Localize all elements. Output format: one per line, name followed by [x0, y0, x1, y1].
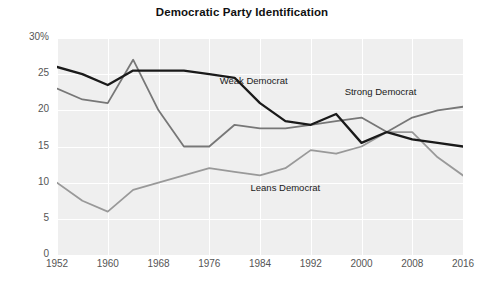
series-line-leans-democrat	[57, 132, 463, 212]
y-axis-tick-label: 30%	[0, 31, 49, 42]
x-axis: 195219601968197619841992200020082016	[0, 258, 484, 278]
x-axis-tick-label: 2016	[452, 258, 474, 269]
y-axis-tick-label: 25	[0, 67, 49, 78]
y-axis-tick-label: 20	[0, 103, 49, 114]
series-lines	[57, 38, 463, 255]
x-axis-tick-label: 1960	[97, 258, 119, 269]
x-axis-tick-label: 1968	[147, 258, 169, 269]
y-axis: 051015202530%	[0, 0, 53, 286]
chart-title: Democratic Party Identification	[0, 6, 484, 18]
series-label-weak-democrat: Weak Democrat	[220, 75, 288, 86]
series-label-leans-democrat: Leans Democrat	[251, 182, 321, 193]
chart-container: Democratic Party Identification 05101520…	[0, 0, 484, 286]
gridline-vertical	[463, 38, 464, 255]
plot-area	[57, 38, 463, 255]
x-axis-tick-label: 1976	[198, 258, 220, 269]
x-axis-tick-label: 1984	[249, 258, 271, 269]
y-axis-tick-label: 10	[0, 176, 49, 187]
x-axis-tick-label: 2000	[350, 258, 372, 269]
y-axis-tick-label: 15	[0, 140, 49, 151]
series-label-strong-democrat: Strong Democrat	[345, 86, 417, 97]
y-axis-tick-label: 5	[0, 212, 49, 223]
x-axis-tick-label: 1952	[46, 258, 68, 269]
x-axis-tick-label: 1992	[300, 258, 322, 269]
x-axis-tick-label: 2008	[401, 258, 423, 269]
